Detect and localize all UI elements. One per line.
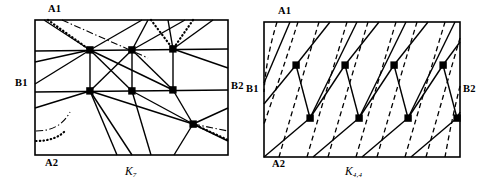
left-panel-label-b2: B2 <box>231 81 244 92</box>
left-panel-label-b1: B1 <box>15 78 28 89</box>
right-panel-caption-letter: K <box>345 165 353 177</box>
right-panel-label-b2: B2 <box>463 84 476 95</box>
right-panel-label-a1: A1 <box>278 6 291 17</box>
figure-container: A1 A2 B1 B2 K7 A1 A2 B1 B2 K4,4 <box>0 0 493 189</box>
left-panel-caption-subscript: 7 <box>133 171 137 179</box>
left-panel-lower-diagonals <box>35 90 228 155</box>
right-panel-label-a2: A2 <box>272 159 285 170</box>
right-panel-label-b1: B1 <box>246 84 259 95</box>
left-panel-caption: K7 <box>125 166 136 179</box>
left-panel-group <box>35 20 228 155</box>
left-panel-label-a1: A1 <box>48 4 61 15</box>
left-panel-caption-letter: K <box>125 165 133 177</box>
right-panel-group <box>264 22 461 157</box>
right-panel-dashed-curves <box>264 22 460 157</box>
figure-svg <box>0 0 493 189</box>
left-panel-label-a2: A2 <box>45 158 58 169</box>
right-panel-caption-subscript: 4,4 <box>353 171 363 179</box>
right-panel-caption: K4,4 <box>345 166 362 179</box>
left-panel-vertices <box>86 45 197 128</box>
